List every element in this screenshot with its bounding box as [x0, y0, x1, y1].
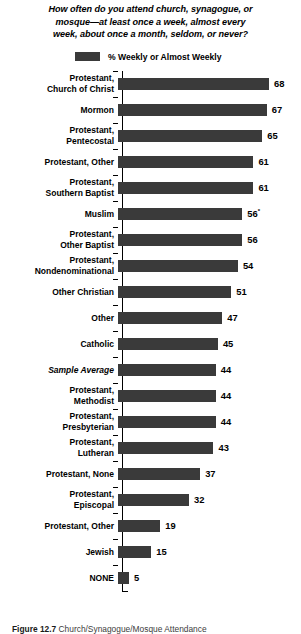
bar: [118, 312, 222, 324]
axis-tick: [113, 435, 118, 436]
chart-row: Muslim56*: [0, 201, 301, 227]
category-label: Protestant, Other: [0, 157, 118, 167]
bar-value-label: 54: [243, 261, 253, 270]
category-label: Protestant, Other: [0, 521, 118, 531]
bar-value-number: 15: [156, 546, 166, 557]
bar-value-label: 65: [267, 131, 277, 140]
category-label: Protestant, Church of Christ: [0, 73, 118, 94]
bar-value-number: 44: [221, 364, 231, 375]
figure-number: Figure 12.7: [12, 624, 56, 634]
bar: [118, 338, 218, 350]
category-label: Jewish: [0, 547, 118, 557]
legend-swatch: [75, 52, 100, 61]
chart-row: Protestant, Methodist44: [0, 383, 301, 409]
bar-area: 67: [118, 97, 301, 123]
bar-value-number: 32: [194, 494, 204, 505]
bar-area: 44: [118, 409, 301, 435]
chart-row: Jewish15: [0, 539, 301, 565]
bar-value-label: 15: [156, 547, 166, 556]
bar-value-label: 43: [218, 443, 228, 452]
bar-area: 56: [118, 227, 301, 253]
bar: [118, 546, 151, 558]
bar: [118, 416, 216, 428]
category-label: Sample Average: [0, 365, 118, 375]
chart-row: Protestant, Southern Baptist61: [0, 175, 301, 201]
category-label: Protestant, Lutheran: [0, 437, 118, 458]
bar-area: 37: [118, 461, 301, 487]
bar-value-number: 61: [258, 182, 268, 193]
bar-value-label: 56*: [247, 209, 260, 218]
footnote-marker: *: [258, 208, 260, 214]
axis-tick: [113, 513, 118, 514]
bar-area: 19: [118, 513, 301, 539]
chart-row: Other Christian51: [0, 279, 301, 305]
bar-value-number: 54: [243, 260, 253, 271]
bar-value-label: 37: [205, 469, 215, 478]
chart-row: Protestant, Lutheran43: [0, 435, 301, 461]
bar-value-number: 67: [272, 104, 282, 115]
bar-value-label: 44: [221, 365, 231, 374]
category-label: Protestant, Episcopal: [0, 489, 118, 510]
category-label: Protestant, Southern Baptist: [0, 177, 118, 198]
chart-row: Mormon67: [0, 97, 301, 123]
bar-area: 32: [118, 487, 301, 513]
bar-value-number: 37: [205, 468, 215, 479]
bar-value-label: 67: [272, 105, 282, 114]
bar-area: 51: [118, 279, 301, 305]
bar-value-number: 56: [247, 208, 257, 219]
bar: [118, 234, 242, 246]
bar-value-number: 61: [258, 156, 268, 167]
axis-tick: [113, 357, 118, 358]
bar-value-label: 5: [134, 573, 139, 582]
bar-value-number: 5: [134, 572, 139, 583]
bar: [118, 156, 253, 168]
bar: [118, 182, 253, 194]
chart-title-line-3: week, about once a month, seldom, or nev…: [12, 28, 289, 41]
bar: [118, 494, 189, 506]
axis-tick: [113, 539, 118, 540]
bar: [118, 208, 242, 220]
chart-row: Sample Average44: [0, 357, 301, 383]
bar: [118, 364, 216, 376]
chart-title: How often do you attend church, synagogu…: [0, 0, 301, 41]
bar-area: 61: [118, 149, 301, 175]
chart-row: Protestant, Episcopal32: [0, 487, 301, 513]
chart-legend: % Weekly or Almost Weekly: [0, 52, 301, 62]
chart-row: Catholic45: [0, 331, 301, 357]
axis-tick: [113, 279, 118, 280]
category-label: Protestant, Pentecostal: [0, 125, 118, 146]
axis-foot-tick: [122, 591, 128, 592]
bar-area: 5: [118, 565, 301, 591]
bar-value-label: 61: [258, 157, 268, 166]
bar-value-label: 32: [194, 495, 204, 504]
bar-value-number: 44: [221, 390, 231, 401]
bar: [118, 260, 238, 272]
category-label: NONE: [0, 573, 118, 583]
bar-area: 54: [118, 253, 301, 279]
bar-value-number: 51: [236, 286, 246, 297]
chart-title-line-2: mosque—at least once a week, almost ever…: [12, 16, 289, 29]
bar-value-number: 68: [274, 78, 284, 89]
bar-value-number: 44: [221, 416, 231, 427]
bar-value-label: 19: [165, 521, 175, 530]
bar-area: 45: [118, 331, 301, 357]
bar: [118, 468, 200, 480]
category-label: Muslim: [0, 209, 118, 219]
bar-value-label: 68: [274, 79, 284, 88]
bar-area: 65: [118, 123, 301, 149]
chart-row: Protestant, Other61: [0, 149, 301, 175]
chart-row: Protestant, None37: [0, 461, 301, 487]
axis-tick: [113, 409, 118, 410]
chart-row: Protestant, Church of Christ68: [0, 71, 301, 97]
bar: [118, 572, 129, 584]
bar-value-label: 61: [258, 183, 268, 192]
bar-value-label: 51: [236, 287, 246, 296]
bar-area: 44: [118, 383, 301, 409]
bar: [118, 78, 269, 90]
bar-area: 15: [118, 539, 301, 565]
category-label: Other Christian: [0, 287, 118, 297]
bar-area: 61: [118, 175, 301, 201]
bar: [118, 286, 231, 298]
bar: [118, 520, 160, 532]
axis-tick: [113, 253, 118, 254]
